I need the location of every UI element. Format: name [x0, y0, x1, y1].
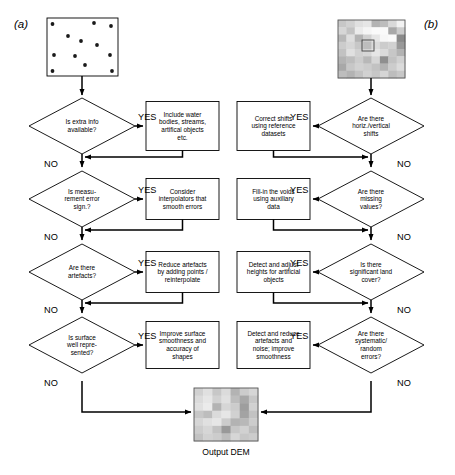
raster-cell: [372, 35, 381, 43]
raster-cell: [240, 396, 250, 404]
raster-cell: [203, 388, 213, 396]
raster-cell: [212, 396, 222, 404]
feedback-edge-right-0: [274, 151, 369, 158]
decision-label-rd2: Are theremissingvalues?: [358, 188, 385, 210]
raster-cell: [240, 388, 250, 396]
raster-cell: [355, 20, 364, 28]
yes-label-right-1: YES: [290, 185, 308, 195]
raster-cell: [221, 403, 231, 411]
no-label-left-2: NO: [44, 305, 58, 315]
raster-cell: [355, 27, 364, 35]
raster-cell: [346, 20, 355, 28]
raster-cell: [221, 411, 231, 419]
raster-cell: [240, 403, 250, 411]
yes-label-right-0: YES: [290, 112, 308, 122]
raster-cell: [221, 388, 231, 396]
feedback-edge-right-2: [274, 293, 369, 304]
feedback-edge-left-2: [85, 293, 183, 304]
raster-cell: [231, 403, 241, 411]
raster-cell: [231, 396, 241, 404]
raster-cell: [380, 49, 389, 57]
raster-cell: [212, 433, 222, 441]
raster-cell: [240, 418, 250, 426]
no-label-left-1: NO: [44, 232, 58, 242]
feedback-edge-left-0: [85, 151, 183, 158]
raster-cell: [240, 433, 250, 441]
raster-cell: [355, 71, 364, 79]
raster-cell: [212, 388, 222, 396]
no-label-right-3: NO: [397, 378, 411, 388]
raster-cell: [372, 71, 381, 79]
raster-cell: [194, 403, 204, 411]
raster-cell: [212, 418, 222, 426]
raster-cell: [338, 49, 347, 57]
raster-cell: [363, 42, 372, 50]
raster-cell: [249, 426, 259, 434]
raster-cell: [397, 42, 406, 50]
raster-cell: [363, 49, 372, 57]
decision-label-d1: Is extra infoavailable?: [65, 118, 98, 133]
raster-cell: [338, 71, 347, 79]
raster-cell: [346, 27, 355, 35]
raster-cell: [380, 64, 389, 72]
raster-cell: [363, 27, 372, 35]
no-label-right-2: NO: [397, 305, 411, 315]
yes-label-left-0: YES: [138, 112, 156, 122]
raster-cell: [249, 396, 259, 404]
raster-cell: [203, 403, 213, 411]
raster-cell: [388, 27, 397, 35]
raster-cell: [231, 433, 241, 441]
raster-cell: [212, 426, 222, 434]
raster-cell: [203, 418, 213, 426]
raster-cell: [388, 35, 397, 43]
action-label-a3: Reduce artefactsby adding points /reinte…: [157, 261, 207, 284]
raster-cell: [338, 35, 347, 43]
raster-cell: [372, 27, 381, 35]
raster-cell: [221, 418, 231, 426]
raster-cell: [203, 411, 213, 419]
raster-cell: [363, 64, 372, 72]
raster-cell: [249, 433, 259, 441]
raster-cell: [221, 426, 231, 434]
raster-cell: [372, 64, 381, 72]
no-label-left-3: NO: [44, 378, 58, 388]
panel-a-label: (a): [14, 18, 28, 30]
point-cloud-input: [47, 18, 118, 76]
yes-label-left-3: YES: [138, 331, 156, 341]
raster-cell: [397, 56, 406, 64]
raster-cell: [249, 403, 259, 411]
raster-cell: [363, 20, 372, 28]
no-label-right-1: NO: [397, 232, 411, 242]
figure-root: (a) (b) Is extra infoavailable?Is measu-…: [0, 0, 455, 475]
raster-cell: [397, 35, 406, 43]
raster-cell: [221, 433, 231, 441]
yes-label-right-3: YES: [290, 331, 308, 341]
raster-cell: [221, 396, 231, 404]
raster-cell: [388, 20, 397, 28]
raster-cell: [194, 411, 204, 419]
output-dem-caption: Output DEM: [202, 447, 249, 457]
raster-cell: [372, 49, 381, 57]
yes-label-left-2: YES: [138, 258, 156, 268]
raster-cell: [231, 388, 241, 396]
raster-cell: [249, 411, 259, 419]
raster-cell: [346, 56, 355, 64]
raster-cell: [388, 42, 397, 50]
raster-cell: [240, 426, 250, 434]
raster-cell: [240, 411, 250, 419]
raster-cell: [212, 411, 222, 419]
raster-cell: [388, 64, 397, 72]
decision-label-d3: Are thereartefacts?: [68, 264, 97, 279]
raster-cell: [346, 49, 355, 57]
raster-cell: [372, 20, 381, 28]
output-dem-image: [194, 388, 258, 441]
raster-cell: [203, 396, 213, 404]
panel-b-label: (b): [424, 18, 438, 30]
feedback-edge-right-1: [274, 220, 369, 231]
raster-cell: [397, 49, 406, 57]
raster-cell: [194, 433, 204, 441]
raster-cell: [338, 56, 347, 64]
raster-cell: [194, 388, 204, 396]
raster-cell: [338, 20, 347, 28]
raster-input: [338, 20, 405, 78]
